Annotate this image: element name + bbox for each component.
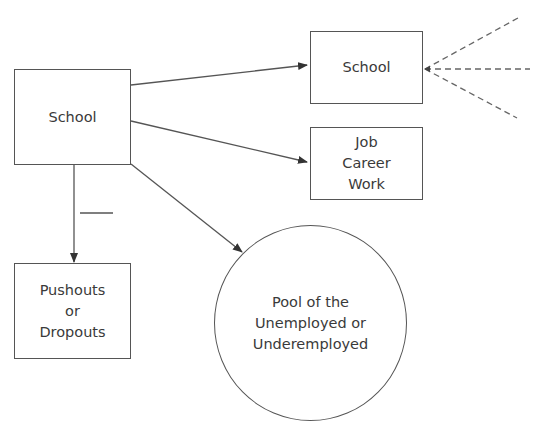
arrow-school-to-job <box>131 121 307 162</box>
node-job-label: Job Career Work <box>342 132 390 195</box>
arrow-school-to-school <box>131 65 307 85</box>
node-school-next: School <box>310 31 423 104</box>
node-job-career-work: Job Career Work <box>310 127 423 200</box>
node-school-source: School <box>14 69 131 165</box>
node-pool-label: Pool of the Unemployed or Underemployed <box>253 292 368 355</box>
arrow-school-to-pool <box>131 164 242 252</box>
node-pushouts-dropouts: Pushouts or Dropouts <box>14 263 131 359</box>
dashed-line-lower <box>425 69 517 118</box>
node-pool-unemployed: Pool of the Unemployed or Underemployed <box>214 225 407 421</box>
node-school-next-label: School <box>342 57 390 78</box>
node-school-source-label: School <box>48 107 96 128</box>
dashed-line-upper <box>425 18 518 69</box>
node-pushouts-label: Pushouts or Dropouts <box>39 280 105 343</box>
dashed-arrowhead <box>424 66 430 72</box>
